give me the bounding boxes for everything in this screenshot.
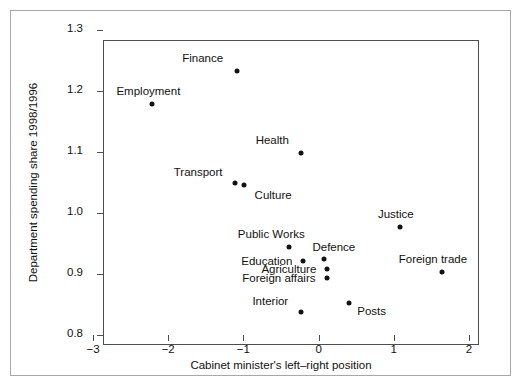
- y-tick-label-text: 0.8: [67, 327, 83, 339]
- x-tick-mark: [394, 335, 395, 341]
- scatter-point-label: Health: [256, 134, 289, 146]
- x-tick-label: −2: [162, 343, 175, 355]
- scatter-point[interactable]: [287, 244, 292, 249]
- x-tick-label: −3: [86, 343, 99, 355]
- scatter-point-label: Foreign trade: [399, 253, 467, 265]
- scatter-point-label: Foreign affairs: [242, 272, 315, 284]
- x-tick-label: 2: [466, 343, 472, 355]
- scatter-point[interactable]: [324, 266, 329, 271]
- scatter-point-label: Finance: [182, 52, 223, 64]
- x-axis-title: Cabinet minister's left–right position: [93, 359, 469, 371]
- y-tick-mark: [97, 213, 103, 214]
- scatter-point[interactable]: [233, 181, 238, 186]
- x-tick-mark: [93, 335, 94, 341]
- scatter-point[interactable]: [439, 270, 444, 275]
- scatter-point[interactable]: [324, 275, 329, 280]
- figure-canvas: 1.31.21.11.00.90.8 −3−2−1012 Department …: [0, 0, 523, 388]
- x-tick-mark: [469, 335, 470, 341]
- y-tick-label-text: 0.9: [67, 266, 83, 278]
- x-tick-label: 1: [391, 343, 397, 355]
- y-axis-title: Department spending share 1998/1996: [27, 30, 43, 335]
- x-tick-label: −1: [237, 343, 250, 355]
- scatter-point-label: Employment: [116, 85, 180, 97]
- figure-outer-border: 1.31.21.11.00.90.8 −3−2−1012 Department …: [10, 10, 511, 376]
- scatter-point[interactable]: [346, 301, 351, 306]
- scatter-point[interactable]: [234, 68, 239, 73]
- y-tick-mark: [97, 152, 103, 153]
- y-tick-mark: [97, 335, 103, 336]
- y-tick-mark: [97, 91, 103, 92]
- scatter-point-label: Public Works: [238, 228, 305, 240]
- y-tick-label-text: 1.0: [67, 205, 83, 217]
- scatter-point-label: Posts: [357, 305, 386, 317]
- scatter-point[interactable]: [242, 182, 247, 187]
- scatter-point-label: Defence: [312, 241, 355, 253]
- scatter-point[interactable]: [150, 101, 155, 106]
- scatter-point[interactable]: [299, 309, 304, 314]
- scatter-point[interactable]: [321, 256, 326, 261]
- scatter-point[interactable]: [397, 225, 402, 230]
- scatter-point-label: Interior: [252, 295, 288, 307]
- y-tick-label-text: 1.2: [67, 83, 83, 95]
- y-tick-label-text: 1.3: [67, 22, 83, 34]
- scatter-point[interactable]: [299, 151, 304, 156]
- scatter-point-label: Transport: [174, 166, 223, 178]
- y-tick-label-text: 1.1: [67, 144, 83, 156]
- x-tick-mark: [319, 335, 320, 341]
- y-tick-mark: [97, 30, 103, 31]
- scatter-point-label: Justice: [378, 208, 414, 220]
- x-tick-label: 0: [315, 343, 321, 355]
- x-tick-mark: [243, 335, 244, 341]
- x-tick-mark: [168, 335, 169, 341]
- scatter-point-label: Culture: [255, 189, 292, 201]
- y-tick-mark: [97, 274, 103, 275]
